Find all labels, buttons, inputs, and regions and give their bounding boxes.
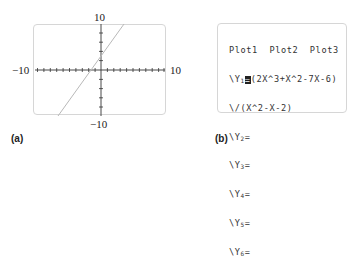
y5-equals: = [245,218,251,228]
y1-expression-line1: (2X^3+X^2-7X-6) [251,74,338,84]
y1-expression-line2: \/(X^2-X-2) [229,104,339,114]
y5-prefix: \Y [229,218,241,228]
y3-equals: = [245,160,251,170]
y3-entry[interactable]: \Y3= [229,161,339,171]
y1-entry[interactable]: \Y1=(2X^3+X^2-7X-6) [229,75,339,85]
panel-b-label: (b) [215,133,228,144]
y3-prefix: \Y [229,160,241,170]
y1-prefix: \Y [229,74,241,84]
x-max-label: 10 [170,65,181,76]
y4-entry[interactable]: \Y4= [229,190,339,200]
panel-a-label: (a) [11,133,23,144]
y6-entry[interactable]: \Y6= [229,248,339,258]
y4-prefix: \Y [229,189,241,199]
y2-equals: = [245,132,251,142]
x-min-label: −10 [12,65,29,76]
plot-header: Plot1 Plot2 Plot3 [229,46,339,56]
y2-entry[interactable]: \Y2= [229,133,339,143]
y5-entry[interactable]: \Y5= [229,219,339,229]
y6-equals: = [245,247,251,257]
y4-equals: = [245,189,251,199]
graph-plot [33,24,167,116]
y6-prefix: \Y [229,247,241,257]
y-equals-editor: Plot1 Plot2 Plot3 \Y1=(2X^3+X^2-7X-6) \/… [229,27,339,260]
y-min-label: −10 [90,119,107,130]
y2-prefix: \Y [229,132,241,142]
y-max-label: 10 [94,12,105,23]
